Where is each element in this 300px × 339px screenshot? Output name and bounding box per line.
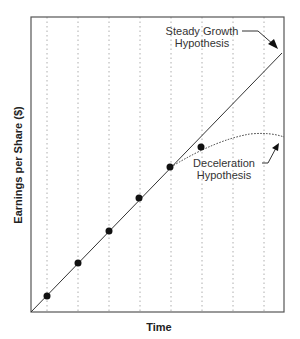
steady-growth-label-line1: Steady Growth [166, 25, 239, 37]
steady-growth-label-line2: Hypothesis [166, 37, 239, 49]
x-axis-label: Time [146, 321, 171, 333]
deceleration-label-line1: Deceleration [193, 157, 255, 169]
annotation-arrows [242, 31, 276, 163]
deceleration-annotation: Deceleration Hypothesis [193, 157, 255, 181]
chart-canvas [0, 0, 300, 339]
deceleration-label-line2: Hypothesis [193, 169, 255, 181]
data-points [44, 144, 205, 300]
steady-growth-annotation: Steady Growth Hypothesis [166, 25, 239, 49]
steady-growth-line [31, 53, 282, 312]
y-axis-label: Earnings per Share ($) [12, 106, 24, 223]
